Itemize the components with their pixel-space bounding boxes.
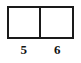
cell-label-left: 5 (7, 42, 41, 60)
cell-labels-row: 5 6 (7, 42, 74, 60)
box-cell-right (41, 8, 73, 37)
box-cell-left (9, 8, 41, 37)
cell-label-right: 6 (41, 42, 75, 60)
figure-root: 5 6 (0, 0, 81, 63)
box-outline (7, 6, 74, 39)
